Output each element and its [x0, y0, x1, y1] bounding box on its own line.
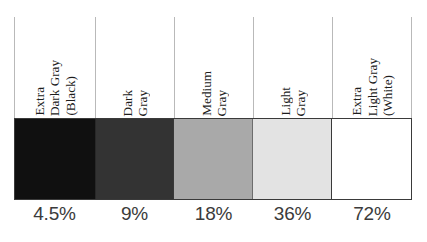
label-line: Gray	[135, 90, 151, 116]
label-line: Medium	[198, 71, 214, 116]
gray-swatch-bar	[14, 118, 412, 200]
percent-value-extra-light-gray: 72%	[332, 203, 412, 237]
label-line: Light	[277, 87, 293, 116]
label-line: Extra	[31, 87, 47, 116]
label-line: Gray	[293, 90, 309, 116]
label-line: Dark	[119, 90, 135, 116]
label-line: (White)	[380, 75, 396, 116]
category-label-extra-light-gray: Extra Light Gray (White)	[332, 14, 412, 118]
label-line: Dark Gray	[47, 60, 63, 116]
label-line: Extra	[349, 87, 365, 116]
percent-value-row: 4.5% 9% 18% 36% 72%	[14, 203, 412, 237]
category-label-medium-gray: Medium Gray	[174, 14, 253, 118]
gray-scale-reflectance-chart: Extra Dark Gray (Black) Dark Gray Medium…	[0, 0, 427, 242]
label-line: Light Gray	[364, 58, 380, 116]
label-line: (Black)	[62, 76, 78, 116]
percent-value-medium-gray: 18%	[174, 203, 253, 237]
label-line: Gray	[214, 90, 230, 116]
category-label-dark-gray: Dark Gray	[95, 14, 174, 118]
swatch-medium-gray	[174, 119, 253, 199]
category-label-extra-dark-gray: Extra Dark Gray (Black)	[14, 14, 95, 118]
swatch-extra-dark-gray	[15, 119, 96, 199]
category-label-light-gray: Light Gray	[253, 14, 332, 118]
percent-value-dark-gray: 9%	[95, 203, 174, 237]
swatch-light-gray	[253, 119, 332, 199]
percent-value-extra-dark-gray: 4.5%	[14, 203, 95, 237]
swatch-extra-light-gray	[331, 119, 411, 199]
category-label-band: Extra Dark Gray (Black) Dark Gray Medium…	[14, 14, 412, 118]
swatch-dark-gray	[96, 119, 175, 199]
percent-value-light-gray: 36%	[253, 203, 332, 237]
